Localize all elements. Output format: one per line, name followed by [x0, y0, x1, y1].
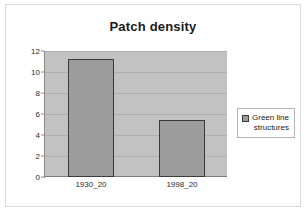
- chart-legend: Green line structures: [237, 108, 295, 138]
- plot-area: [45, 51, 227, 177]
- y-axis-tick-label: 10: [6, 68, 40, 77]
- y-axis-tick-label: 12: [6, 47, 40, 56]
- y-axis-tick-label: 0: [6, 173, 40, 182]
- series-color-swatch: [242, 115, 249, 122]
- y-axis-tick-labels: 024681012: [6, 51, 40, 177]
- y-axis-tick-label: 2: [6, 152, 40, 161]
- bar: [159, 120, 205, 177]
- y-axis-tick-label: 8: [6, 89, 40, 98]
- y-axis-tick-label: 4: [6, 131, 40, 140]
- chart-title: Patch density: [6, 19, 300, 34]
- x-axis-tick-label: 1930_20: [75, 180, 106, 189]
- chart-frame: Patch density 024681012 1930_201998_20 G…: [5, 4, 301, 207]
- bar: [68, 59, 114, 177]
- legend-item-label: Green line structures: [252, 113, 289, 133]
- y-axis-tick-label: 6: [6, 110, 40, 119]
- gridline: [45, 51, 227, 52]
- x-axis-tick-labels: 1930_201998_20: [45, 180, 227, 194]
- x-axis-tick-label: 1998_20: [166, 180, 197, 189]
